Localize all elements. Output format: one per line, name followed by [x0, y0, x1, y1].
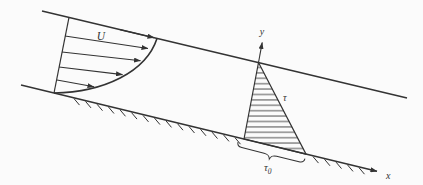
free-surface-line — [42, 11, 407, 98]
surface-velocity-arrow — [120, 30, 154, 38]
shear-stress-label: τ — [283, 92, 287, 103]
velocity-arrow-2 — [62, 52, 141, 61]
bed-hatching-left — [74, 99, 241, 145]
free-stream-velocity-label: U — [97, 30, 106, 42]
bed-hatching-right — [313, 157, 365, 175]
velocity-arrow-4 — [57, 80, 94, 87]
y-axis-label: y — [259, 26, 265, 37]
x-axis-label: x — [385, 170, 391, 181]
channel-bed-x-axis-line — [21, 85, 377, 171]
velocity-profile-curve — [54, 38, 157, 93]
shear-stress-triangle — [244, 63, 306, 155]
y-axis-arrow — [259, 43, 263, 63]
wall-shear-label: τ0 — [264, 162, 272, 176]
open-channel-flow-figure: U y τ τ0 x — [0, 0, 423, 185]
diagram-canvas: U y τ τ0 x — [0, 0, 423, 185]
velocity-arrow-1 — [65, 36, 148, 49]
velocity-arrow-3 — [59, 67, 123, 75]
